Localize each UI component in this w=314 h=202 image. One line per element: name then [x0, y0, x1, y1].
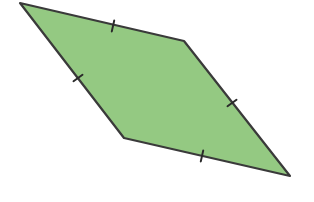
- rhombus-shape: [20, 3, 290, 176]
- rhombus-diagram: [0, 0, 314, 202]
